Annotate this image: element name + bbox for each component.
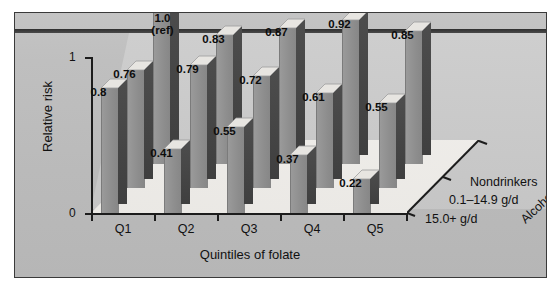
x-label-q4: Q4 (292, 222, 332, 236)
y-axis-line (91, 57, 93, 214)
bar-front-face (342, 20, 360, 164)
bar-value-label: 0.37 (270, 153, 305, 165)
bar-value-label: 0.41 (144, 147, 179, 159)
x-tick-4 (343, 214, 345, 221)
bar-value-label: 0.61 (296, 91, 331, 103)
bar-value-label: 0.76 (107, 68, 142, 80)
x-tick-1 (154, 214, 156, 221)
y-axis-label: Relative risk (40, 62, 55, 172)
bar-value-label: 0.92 (322, 18, 357, 30)
bar-side-face (296, 19, 305, 155)
bar-front-face (253, 76, 271, 188)
bar-value-label: 0.87 (259, 26, 294, 38)
bar-front-face (379, 103, 397, 189)
bar-side-face (144, 61, 153, 180)
bar-front-face (101, 88, 119, 213)
bar-front-face (127, 70, 145, 189)
x-axis-label: Quintiles of folate (125, 247, 375, 262)
bar-value-label: 0.55 (359, 101, 394, 113)
y-tick-1 (85, 57, 92, 59)
bar-side-face (359, 12, 368, 155)
bar-q3-series2 (279, 28, 296, 164)
y-tick-label-0: 0 (69, 206, 76, 220)
bar-side-face (333, 84, 342, 179)
legend-item-low-alcohol: 0.1–14.9 g/d (449, 193, 519, 207)
legend-item-high-alcohol: 15.0+ g/d (425, 212, 477, 226)
bar-side-face (207, 56, 216, 179)
bar-value-label: 0.8 (81, 86, 116, 98)
bar-q5-series2 (405, 31, 422, 164)
y-tick-label-1: 1 (69, 50, 76, 64)
bar-front-face (316, 93, 334, 188)
bar-front-face (227, 127, 245, 213)
x-tick-5 (406, 214, 408, 221)
bar-q2-series1 (190, 65, 207, 188)
bar-front-face (190, 65, 208, 188)
chart-3d-scene: 1 0 Relative risk Quintiles of folate Q1… (15, 13, 546, 277)
x-label-q3: Q3 (229, 222, 269, 236)
x-tick-2 (217, 214, 219, 221)
bar-side-face (396, 94, 405, 180)
bar-value-label: 0.83 (196, 33, 231, 45)
bar-q5-series1 (379, 103, 396, 189)
bar-front-face (405, 31, 423, 164)
bar-side-face (244, 118, 253, 204)
figure-screenshot: 1 0 Relative risk Quintiles of folate Q1… (0, 0, 559, 290)
bar-value-label: 0.79 (170, 63, 205, 75)
bar-q4-series1 (316, 93, 333, 188)
x-axis-line (91, 213, 408, 215)
x-tick-3 (280, 214, 282, 221)
bar-q1-series0 (101, 88, 118, 213)
bar-q3-series1 (253, 76, 270, 188)
bar-q1-series1 (127, 70, 144, 189)
bar-side-face (422, 22, 431, 155)
bar-value-label: 0.55 (207, 125, 242, 137)
bar-side-face (118, 79, 127, 204)
bar-value-label: 0.85 (385, 29, 420, 41)
bar-q3-series0 (227, 127, 244, 213)
bar-value-label: 1.0(ref) (151, 12, 174, 36)
x-label-q1: Q1 (103, 222, 143, 236)
bar-value-label: 0.72 (233, 74, 268, 86)
bar-front-face (279, 28, 297, 164)
figure-frame: 1 0 Relative risk Quintiles of folate Q1… (14, 12, 547, 278)
bar-value-label: 0.22 (333, 177, 368, 189)
x-label-q2: Q2 (166, 222, 206, 236)
bar-q4-series2 (342, 20, 359, 164)
x-label-q5: Q5 (355, 222, 395, 236)
x-tick-0 (91, 214, 93, 221)
legend-item-nondrinkers: Nondrinkers (470, 175, 537, 189)
